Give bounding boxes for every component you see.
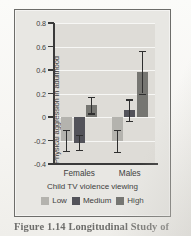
- error-bar-line: [117, 130, 118, 152]
- error-bar-cap-lower: [139, 94, 146, 95]
- error-bar-cap-upper: [139, 51, 146, 52]
- y-axis-tick-label: -0.4: [34, 160, 46, 169]
- error-bar-line: [91, 97, 92, 113]
- legend-swatch-medium: [72, 197, 80, 205]
- error-bar-cap-upper: [126, 99, 133, 100]
- figure-panel: 0.80.60.40.20-0.2-0.4 Physical aggressio…: [14, 9, 171, 217]
- error-bar-line: [142, 51, 143, 93]
- y-axis-tick-label: 0.8: [36, 19, 46, 28]
- error-bar-cap-upper: [76, 135, 83, 136]
- error-bar-line: [79, 135, 80, 150]
- y-axis-tick-label: 0: [42, 113, 46, 122]
- legend-swatch-high: [116, 197, 124, 205]
- chart-legend: LowMediumHigh: [15, 196, 170, 205]
- legend-label-low: Low: [52, 196, 67, 205]
- x-axis-line: [51, 163, 158, 165]
- group-label-males: Males: [119, 169, 141, 178]
- page-background: 0.80.60.40.20-0.2-0.4 Physical aggressio…: [0, 0, 191, 236]
- x-axis-title: Child TV violence viewing: [15, 182, 170, 191]
- gridline: [54, 47, 155, 48]
- figure-caption: Figure 1.14 Longitudinal Study of: [14, 221, 182, 233]
- y-axis-tick-label: -0.2: [34, 136, 46, 145]
- legend-swatch-low: [41, 197, 49, 205]
- gridline: [54, 23, 155, 24]
- error-bar-cap-upper: [88, 97, 95, 98]
- group-label-females: Females: [64, 169, 95, 178]
- error-bar-cap-lower: [88, 113, 95, 114]
- gridline: [54, 70, 155, 71]
- y-axis-tick-label: 0.6: [36, 42, 46, 51]
- error-bar-cap-lower: [126, 121, 133, 122]
- y-axis-tick-label: 0.2: [36, 89, 46, 98]
- legend-label-high: High: [127, 196, 143, 205]
- legend-item-low: Low: [41, 196, 67, 205]
- y-axis-tick: [48, 22, 54, 24]
- legend-item-high: High: [116, 196, 143, 205]
- error-bar-cap-lower: [76, 150, 83, 151]
- plot-area: 0.80.60.40.20-0.2-0.4 Physical aggressio…: [54, 23, 155, 173]
- y-axis-tick-label: 0.4: [36, 66, 46, 75]
- error-bar-line: [66, 130, 67, 151]
- error-bar-cap-lower: [63, 151, 70, 152]
- error-bar-cap-upper: [63, 130, 70, 131]
- error-bar-line: [129, 99, 130, 120]
- error-bar-cap-upper: [114, 130, 121, 131]
- legend-item-medium: Medium: [72, 196, 111, 205]
- error-bar-cap-lower: [114, 152, 121, 153]
- legend-label-medium: Medium: [83, 196, 111, 205]
- gridline: [54, 141, 155, 142]
- y-axis-title: Physical aggression in adulthood: [52, 45, 61, 175]
